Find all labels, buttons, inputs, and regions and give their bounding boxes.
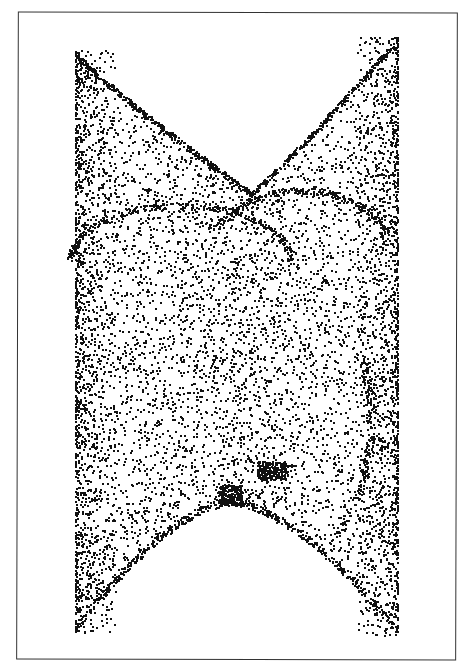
scatter-plot-canvas xyxy=(0,0,465,670)
